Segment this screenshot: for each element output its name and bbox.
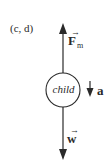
part-label: (c, d) xyxy=(10,23,33,34)
acceleration-arrow xyxy=(87,81,94,97)
vector-arrow-icon: → xyxy=(70,126,79,135)
arrowhead-acceleration-icon xyxy=(87,88,94,97)
arrowhead-up-icon xyxy=(59,23,67,34)
object-label: child xyxy=(47,84,80,95)
force-label-fm: →Fm xyxy=(68,34,83,50)
vector-arrow-icon: → xyxy=(71,28,80,37)
force-label-w: →w xyxy=(67,132,76,145)
arrowhead-down-icon xyxy=(59,149,67,160)
force-subscript: m xyxy=(77,41,83,50)
force-arrow-up xyxy=(59,23,67,73)
force-arrow-down xyxy=(59,107,67,160)
acceleration-label: a xyxy=(97,84,104,97)
